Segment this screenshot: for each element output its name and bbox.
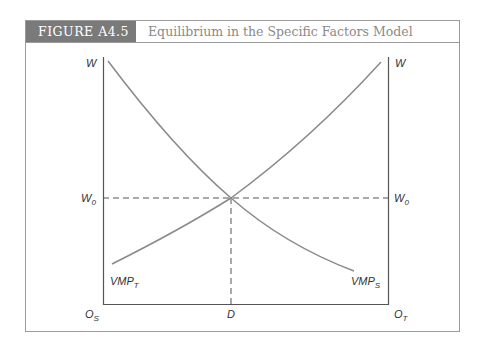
chart-svg: W W W0 W0 VMPT VMPS OS OT D xyxy=(0,0,484,353)
w0-left-label: W0 xyxy=(81,192,96,207)
os-origin-label: OS xyxy=(85,308,100,323)
w0-right-label: W0 xyxy=(394,192,409,207)
w-right-label: W xyxy=(395,57,407,69)
d-label: D xyxy=(227,308,235,320)
vmpt-label: VMPT xyxy=(110,275,140,290)
vmpt-curve xyxy=(112,62,381,264)
ot-origin-label: OT xyxy=(394,308,409,323)
vmps-label: VMPS xyxy=(351,275,381,290)
w-left-label: W xyxy=(86,57,98,69)
